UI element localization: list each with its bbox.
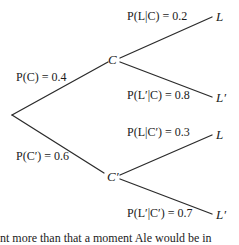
leaf-l-prime-lower: L′ [216, 208, 226, 222]
leaf-l-upper: L [216, 10, 223, 24]
node-c: C [108, 53, 117, 67]
clipped-footer-text: nt more than that a moment Ale would be … [0, 231, 212, 245]
prob-label-l-given-c-prime: P(L|C′) = 0.3 [127, 125, 190, 139]
prob-label-c: P(C) = 0.4 [16, 70, 66, 84]
leaf-l-prime-upper: L′ [216, 91, 226, 105]
branch-c-to-l [120, 17, 212, 58]
leaf-l-lower: L [216, 128, 223, 142]
prob-label-l-prime-given-c-prime: P(L′|C′) = 0.7 [127, 206, 192, 220]
branch-root-to-c-prime [12, 115, 104, 173]
branch-c-prime-to-l [120, 135, 212, 175]
prob-label-l-given-c: P(L|C) = 0.2 [127, 9, 187, 23]
node-c-prime: C′ [107, 170, 119, 184]
prob-label-l-prime-given-c: P(L′|C) = 0.8 [127, 88, 190, 102]
prob-label-c-prime: P(C′) = 0.6 [16, 149, 69, 163]
